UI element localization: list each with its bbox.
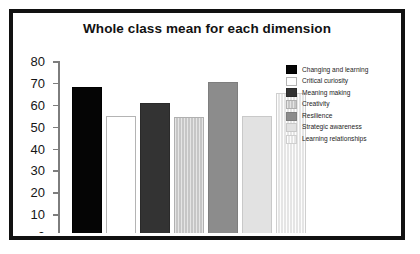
legend-swatch-icon	[286, 123, 297, 132]
y-axis-tick-label: 30	[31, 163, 45, 178]
y-axis-tick: 60	[53, 105, 59, 107]
legend-item: Critical curiosity	[286, 76, 390, 88]
legend-swatch-icon	[286, 112, 297, 121]
legend-item-label: Creativity	[302, 101, 329, 108]
y-axis-tick: 30	[53, 170, 59, 172]
chart-figure-inner: Whole class mean for each dimension 0102…	[16, 16, 398, 233]
legend-swatch-icon	[286, 65, 297, 74]
y-axis-tick-label: 70	[31, 75, 45, 90]
legend-swatch-icon	[286, 135, 297, 144]
y-axis-line	[58, 61, 60, 233]
bar-strategic-awareness	[242, 116, 272, 233]
y-axis-tick: 20	[53, 192, 59, 194]
legend-item-label: Learning relationships	[302, 136, 367, 143]
plot-area: 01020304050607080	[58, 61, 308, 233]
legend-item-label: Critical curiosity	[302, 78, 348, 85]
chart-title: Whole class mean for each dimension	[16, 21, 398, 36]
y-axis-tick: 70	[53, 83, 59, 85]
bar-creativity	[174, 117, 204, 233]
bar-resilience	[208, 82, 238, 233]
y-axis-tick-label: 80	[31, 54, 45, 69]
bar-critical-curiosity	[106, 116, 136, 233]
legend-item: Strategic awareness	[286, 122, 390, 134]
y-axis-tick-label: 40	[31, 141, 45, 156]
y-axis-tick: 80	[53, 61, 59, 63]
chart-legend: Changing and learningCritical curiosityM…	[286, 64, 390, 145]
y-axis-tick-label: 50	[31, 119, 45, 134]
y-axis-tick: 40	[53, 149, 59, 151]
bar-meaning-making	[140, 103, 170, 233]
chart-figure-frame: Whole class mean for each dimension 0102…	[9, 9, 405, 240]
legend-item-label: Strategic awareness	[302, 124, 362, 131]
legend-item: Meaning making	[286, 87, 390, 99]
y-axis-tick: 50	[53, 127, 59, 129]
y-axis-tick-label: 60	[31, 97, 45, 112]
legend-item: Learning relationships	[286, 134, 390, 146]
bar-group	[72, 61, 308, 233]
legend-item: Resilience	[286, 110, 390, 122]
legend-item: Changing and learning	[286, 64, 390, 76]
legend-swatch-icon	[286, 100, 297, 109]
legend-swatch-icon	[286, 77, 297, 86]
legend-item-label: Meaning making	[302, 90, 350, 97]
page-bleed-text	[0, 0, 420, 6]
y-axis-tick-label: 10	[31, 207, 45, 222]
y-axis-tick-label: 20	[31, 185, 45, 200]
legend-item-label: Changing and learning	[302, 67, 368, 74]
y-axis-tick: 10	[53, 214, 59, 216]
bar-changing-and-learning	[72, 87, 102, 233]
legend-swatch-icon	[286, 88, 297, 97]
legend-item-label: Resilience	[302, 113, 332, 120]
legend-item: Creativity	[286, 99, 390, 111]
y-axis-tick-label: 0	[38, 229, 45, 234]
